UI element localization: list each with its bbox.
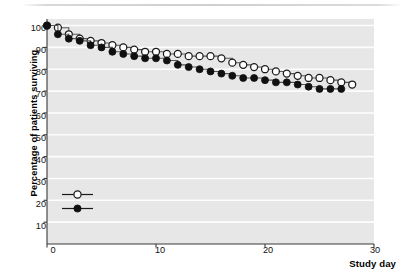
marker-placebo-19 bbox=[251, 64, 258, 71]
marker-filgrastim-9 bbox=[142, 55, 149, 62]
marker-placebo-27 bbox=[338, 79, 345, 86]
marker-filgrastim-1 bbox=[54, 31, 61, 38]
marker-placebo-13 bbox=[185, 53, 192, 60]
marker-placebo-9 bbox=[142, 48, 149, 55]
marker-filgrastim-10 bbox=[153, 55, 160, 62]
marker-filgrastim-21 bbox=[272, 79, 279, 86]
marker-placebo-25 bbox=[316, 74, 323, 81]
marker-placebo-7 bbox=[120, 44, 127, 51]
marker-placebo-23 bbox=[294, 72, 301, 79]
marker-filgrastim-24 bbox=[305, 83, 312, 90]
marker-filgrastim-22 bbox=[283, 79, 290, 86]
marker-filgrastim-3 bbox=[76, 37, 83, 44]
marker-placebo-20 bbox=[262, 66, 269, 73]
marker-placebo-22 bbox=[283, 70, 290, 77]
marker-filgrastim-14 bbox=[196, 66, 203, 73]
marker-placebo-17 bbox=[229, 59, 236, 66]
marker-filgrastim-19 bbox=[251, 74, 258, 81]
marker-placebo-18 bbox=[240, 61, 247, 68]
marker-filgrastim-13 bbox=[185, 64, 192, 71]
marker-filgrastim-7 bbox=[120, 50, 127, 57]
marker-filgrastim-8 bbox=[131, 53, 138, 60]
marker-filgrastim-27 bbox=[338, 85, 345, 92]
marker-filgrastim-5 bbox=[98, 44, 105, 51]
marker-filgrastim-11 bbox=[163, 57, 170, 64]
marker-placebo-21 bbox=[272, 68, 279, 75]
marker-filgrastim-26 bbox=[327, 85, 334, 92]
marker-filgrastim-12 bbox=[174, 61, 181, 68]
marker-filgrastim-16 bbox=[218, 70, 225, 77]
legend-swatch-marker-filgrastim bbox=[74, 205, 81, 212]
marker-placebo-16 bbox=[218, 55, 225, 62]
marker-filgrastim-20 bbox=[262, 77, 269, 84]
marker-placebo-26 bbox=[327, 77, 334, 84]
marker-placebo-14 bbox=[196, 53, 203, 60]
marker-filgrastim-25 bbox=[316, 85, 323, 92]
legend-swatch-marker-placebo bbox=[74, 191, 81, 198]
marker-placebo-10 bbox=[153, 48, 160, 55]
marker-placebo-15 bbox=[207, 53, 214, 60]
marker-placebo-24 bbox=[305, 74, 312, 81]
marker-filgrastim-2 bbox=[65, 35, 72, 42]
marker-filgrastim-6 bbox=[109, 48, 116, 55]
marker-placebo-11 bbox=[163, 50, 170, 57]
marker-filgrastim-4 bbox=[87, 42, 94, 49]
survival-chart-figure: Percentage of patients surviving Study d… bbox=[0, 0, 404, 278]
marker-placebo-12 bbox=[174, 50, 181, 57]
plot-canvas bbox=[0, 0, 404, 278]
marker-placebo-8 bbox=[131, 46, 138, 53]
marker-filgrastim-15 bbox=[207, 68, 214, 75]
marker-filgrastim-0 bbox=[44, 22, 51, 29]
marker-filgrastim-17 bbox=[229, 72, 236, 79]
marker-filgrastim-18 bbox=[240, 74, 247, 81]
marker-filgrastim-23 bbox=[294, 81, 301, 88]
marker-placebo-28 bbox=[349, 81, 356, 88]
